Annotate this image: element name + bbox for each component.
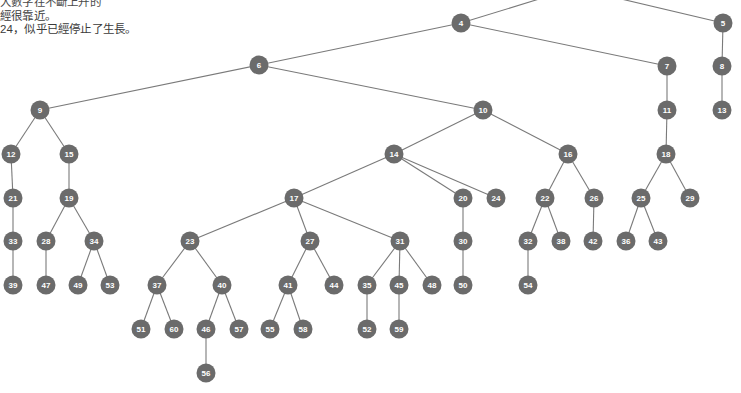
tree-node[interactable]: 4 <box>452 14 471 33</box>
tree-node-circle[interactable] <box>101 276 120 295</box>
tree-node-circle[interactable] <box>250 56 269 75</box>
tree-node[interactable]: 51 <box>132 320 151 339</box>
tree-node-circle[interactable] <box>584 232 603 251</box>
tree-node-circle[interactable] <box>4 232 23 251</box>
tree-node-circle[interactable] <box>714 14 733 33</box>
tree-node[interactable]: 41 <box>279 276 298 295</box>
tree-node[interactable]: 21 <box>4 189 23 208</box>
tree-node-circle[interactable] <box>37 232 56 251</box>
tree-node[interactable]: 40 <box>213 276 232 295</box>
tree-node[interactable]: 43 <box>649 232 668 251</box>
tree-node-circle[interactable] <box>261 320 280 339</box>
tree-node[interactable]: 8 <box>713 57 732 76</box>
tree-node[interactable]: 59 <box>390 320 409 339</box>
tree-node-circle[interactable] <box>85 232 104 251</box>
tree-node[interactable]: 53 <box>101 276 120 295</box>
tree-node[interactable]: 15 <box>60 145 79 164</box>
tree-node-circle[interactable] <box>452 14 471 33</box>
tree-node-circle[interactable] <box>294 320 313 339</box>
tree-node-circle[interactable] <box>60 189 79 208</box>
tree-node-circle[interactable] <box>649 232 668 251</box>
tree-node[interactable]: 42 <box>584 232 603 251</box>
tree-node[interactable]: 38 <box>552 232 571 251</box>
tree-node-circle[interactable] <box>390 320 409 339</box>
tree-node-circle[interactable] <box>657 145 676 164</box>
tree-node[interactable]: 24 <box>487 189 506 208</box>
tree-node-circle[interactable] <box>69 276 88 295</box>
tree-node-circle[interactable] <box>285 189 304 208</box>
tree-node[interactable]: 7 <box>658 57 677 76</box>
tree-node[interactable]: 29 <box>681 189 700 208</box>
tree-node-circle[interactable] <box>487 189 506 208</box>
tree-graph-canvas[interactable]: 4567891011131215141618211917202422262529… <box>0 0 741 393</box>
tree-node[interactable]: 5 <box>714 14 733 33</box>
tree-node-circle[interactable] <box>2 145 21 164</box>
tree-node[interactable]: 9 <box>31 101 50 120</box>
tree-node-circle[interactable] <box>617 232 636 251</box>
tree-node-circle[interactable] <box>132 320 151 339</box>
tree-node-circle[interactable] <box>519 232 538 251</box>
tree-node[interactable]: 30 <box>454 232 473 251</box>
tree-node[interactable]: 58 <box>294 320 313 339</box>
tree-node[interactable]: 44 <box>325 276 344 295</box>
tree-node[interactable]: 60 <box>165 320 184 339</box>
tree-node[interactable]: 54 <box>519 276 538 295</box>
tree-node[interactable]: 57 <box>230 320 249 339</box>
tree-node[interactable]: 50 <box>454 276 473 295</box>
tree-node-circle[interactable] <box>213 276 232 295</box>
tree-node[interactable]: 12 <box>2 145 21 164</box>
tree-node[interactable]: 20 <box>454 189 473 208</box>
tree-node-circle[interactable] <box>632 189 651 208</box>
tree-node[interactable]: 52 <box>358 320 377 339</box>
tree-node-circle[interactable] <box>230 320 249 339</box>
tree-node-circle[interactable] <box>423 276 442 295</box>
tree-node[interactable]: 45 <box>390 276 409 295</box>
tree-node-circle[interactable] <box>148 276 167 295</box>
tree-node-circle[interactable] <box>197 364 216 383</box>
tree-node[interactable]: 56 <box>197 364 216 383</box>
tree-node-circle[interactable] <box>536 189 555 208</box>
tree-node[interactable]: 11 <box>658 101 677 120</box>
tree-node-circle[interactable] <box>197 320 216 339</box>
tree-node[interactable]: 34 <box>85 232 104 251</box>
tree-node[interactable]: 33 <box>4 232 23 251</box>
tree-node-circle[interactable] <box>391 232 410 251</box>
tree-node-circle[interactable] <box>279 276 298 295</box>
tree-node-circle[interactable] <box>454 189 473 208</box>
tree-node-circle[interactable] <box>713 57 732 76</box>
tree-node-circle[interactable] <box>519 276 538 295</box>
tree-node[interactable]: 25 <box>632 189 651 208</box>
tree-node-circle[interactable] <box>390 276 409 295</box>
tree-node-circle[interactable] <box>301 232 320 251</box>
tree-node[interactable]: 48 <box>423 276 442 295</box>
tree-node-circle[interactable] <box>713 101 732 120</box>
tree-node[interactable]: 32 <box>519 232 538 251</box>
tree-node[interactable]: 17 <box>285 189 304 208</box>
tree-node[interactable]: 28 <box>37 232 56 251</box>
tree-node-circle[interactable] <box>474 101 493 120</box>
tree-node[interactable]: 16 <box>559 145 578 164</box>
tree-node-circle[interactable] <box>358 320 377 339</box>
tree-node[interactable]: 37 <box>148 276 167 295</box>
tree-node[interactable]: 26 <box>585 189 604 208</box>
tree-node[interactable]: 46 <box>197 320 216 339</box>
tree-node[interactable]: 18 <box>657 145 676 164</box>
tree-node[interactable]: 13 <box>713 101 732 120</box>
tree-node[interactable]: 47 <box>37 276 56 295</box>
tree-node-circle[interactable] <box>454 276 473 295</box>
tree-node-circle[interactable] <box>4 276 23 295</box>
tree-node[interactable]: 6 <box>250 56 269 75</box>
tree-node-circle[interactable] <box>4 189 23 208</box>
tree-node-circle[interactable] <box>37 276 56 295</box>
tree-node-circle[interactable] <box>454 232 473 251</box>
tree-node[interactable]: 55 <box>261 320 280 339</box>
tree-node[interactable]: 39 <box>4 276 23 295</box>
tree-node-circle[interactable] <box>60 145 79 164</box>
tree-node-circle[interactable] <box>658 101 677 120</box>
tree-node[interactable]: 19 <box>60 189 79 208</box>
tree-node-circle[interactable] <box>559 145 578 164</box>
tree-node[interactable]: 35 <box>358 276 377 295</box>
tree-node-circle[interactable] <box>325 276 344 295</box>
tree-node-circle[interactable] <box>681 189 700 208</box>
tree-node-circle[interactable] <box>658 57 677 76</box>
